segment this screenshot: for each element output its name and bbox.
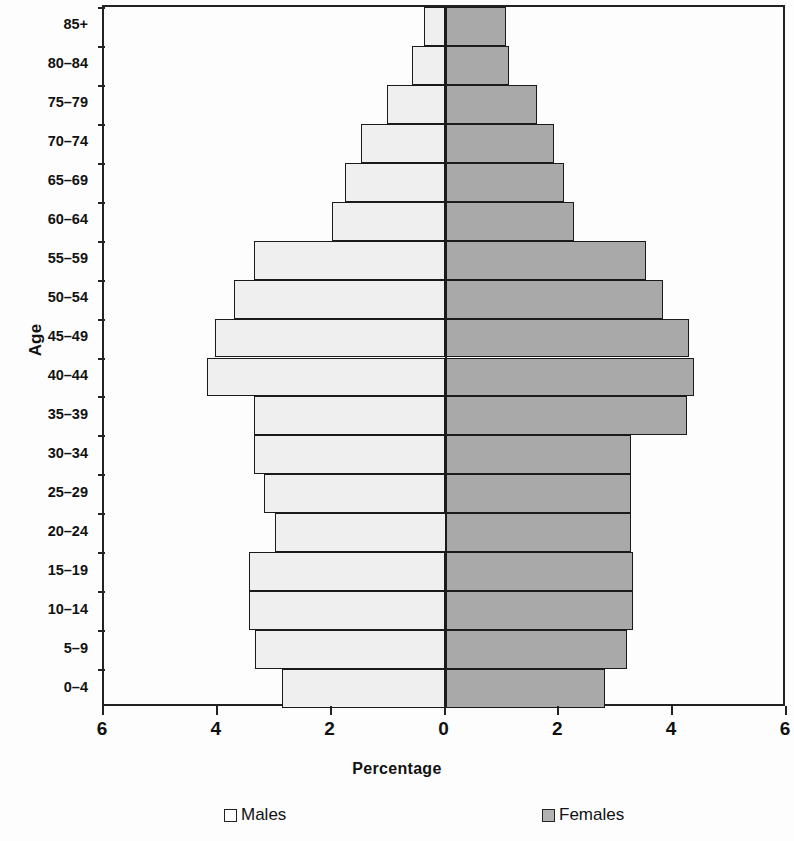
bar-male-85+ [424, 7, 445, 46]
y-tick-mark [98, 163, 105, 165]
bar-male-80-84 [412, 46, 445, 85]
bar-male-40-44 [207, 358, 445, 397]
x-tick-label: 0 [424, 718, 464, 740]
y-tick-label: 55–59 [48, 250, 88, 266]
bar-male-55-59 [254, 241, 446, 280]
bar-female-10-14 [446, 591, 634, 630]
bar-female-55-59 [446, 241, 646, 280]
x-tick-mark [330, 706, 332, 715]
x-tick-mark [102, 706, 104, 715]
legend-swatch-males-icon [224, 809, 237, 822]
bar-female-50-54 [446, 280, 663, 319]
bar-male-70-74 [361, 124, 445, 163]
bar-female-75-79 [446, 85, 537, 124]
y-tick-label: 45–49 [48, 328, 88, 344]
bar-male-20-24 [275, 513, 446, 552]
y-tick-label: 50–54 [48, 289, 88, 305]
x-tick-label: 6 [765, 718, 794, 740]
y-tick-mark [98, 435, 105, 437]
x-tick-mark [444, 706, 446, 715]
bar-female-20-24 [446, 513, 632, 552]
y-tick-mark [98, 280, 105, 282]
x-tick-mark [671, 706, 673, 715]
x-tick-label: 2 [310, 718, 350, 740]
bar-female-65-69 [446, 163, 564, 202]
x-tick-label: 4 [196, 718, 236, 740]
y-tick-mark [98, 46, 105, 48]
y-tick-mark [98, 591, 105, 593]
bar-female-0-4 [446, 669, 606, 708]
x-tick-label: 6 [82, 718, 122, 740]
bar-female-85+ [446, 7, 506, 46]
y-axis-tick-labels: 0–45–910–1415–1920–2425–2930–3435–3940–4… [0, 0, 96, 841]
y-tick-mark [98, 513, 105, 515]
y-tick-label: 20–24 [48, 523, 88, 539]
legend-item-females: Females [542, 805, 624, 825]
bar-male-25-29 [264, 474, 446, 513]
legend-label-males: Males [241, 805, 286, 825]
bar-female-25-29 [446, 474, 632, 513]
bar-female-30-34 [446, 435, 632, 474]
legend-swatch-females-icon [542, 809, 555, 822]
y-tick-label: 25–29 [48, 484, 88, 500]
bar-female-80-84 [446, 46, 510, 85]
bar-male-45-49 [215, 319, 446, 358]
x-tick-mark [785, 706, 787, 715]
y-tick-label: 0–4 [64, 679, 88, 695]
y-tick-mark [98, 319, 105, 321]
bar-male-15-19 [249, 552, 445, 591]
y-tick-label: 5–9 [64, 640, 88, 656]
zero-axis-line [445, 7, 447, 704]
y-tick-label: 80–84 [48, 55, 88, 71]
bar-female-35-39 [446, 396, 687, 435]
population-pyramid-chart: Age 0–45–910–1415–1920–2425–2930–3435–39… [0, 0, 794, 841]
bar-female-40-44 [446, 358, 694, 397]
y-tick-label: 15–19 [48, 562, 88, 578]
x-tick-label: 2 [537, 718, 577, 740]
x-tick-label: 4 [651, 718, 691, 740]
y-tick-mark [98, 474, 105, 476]
y-tick-mark [98, 202, 105, 204]
y-tick-label: 85+ [63, 16, 88, 32]
x-tick-mark [216, 706, 218, 715]
bar-female-5-9 [446, 630, 628, 669]
bar-male-0-4 [282, 669, 446, 708]
y-tick-mark [98, 396, 105, 398]
y-tick-label: 65–69 [48, 172, 88, 188]
chart-legend: Males Females [0, 805, 794, 835]
y-tick-mark [98, 669, 105, 671]
bar-male-30-34 [254, 435, 446, 474]
x-tick-mark [557, 706, 559, 715]
bar-male-60-64 [332, 202, 445, 241]
y-tick-label: 70–74 [48, 133, 88, 149]
y-tick-label: 75–79 [48, 94, 88, 110]
bar-male-10-14 [249, 591, 446, 630]
bar-female-60-64 [446, 202, 574, 241]
y-tick-mark [98, 630, 105, 632]
y-tick-label: 60–64 [48, 211, 88, 227]
y-tick-mark [98, 124, 105, 126]
plot-area [102, 5, 785, 706]
bar-female-70-74 [446, 124, 554, 163]
y-tick-mark [98, 552, 105, 554]
y-tick-label: 35–39 [48, 406, 88, 422]
y-tick-label: 40–44 [48, 367, 88, 383]
bar-female-45-49 [446, 319, 689, 358]
bar-male-5-9 [255, 630, 445, 669]
y-tick-label: 30–34 [48, 445, 88, 461]
bar-male-50-54 [234, 280, 446, 319]
y-tick-mark [98, 358, 105, 360]
legend-item-males: Males [224, 805, 286, 825]
y-tick-mark [98, 241, 105, 243]
bar-female-15-19 [446, 552, 634, 591]
y-tick-mark [98, 7, 105, 9]
y-tick-mark [98, 85, 105, 87]
legend-label-females: Females [559, 805, 624, 825]
bar-male-65-69 [345, 163, 445, 202]
bar-male-35-39 [254, 396, 446, 435]
bar-male-75-79 [387, 85, 446, 124]
y-tick-label: 10–14 [48, 601, 88, 617]
x-axis-title: Percentage [0, 760, 794, 778]
